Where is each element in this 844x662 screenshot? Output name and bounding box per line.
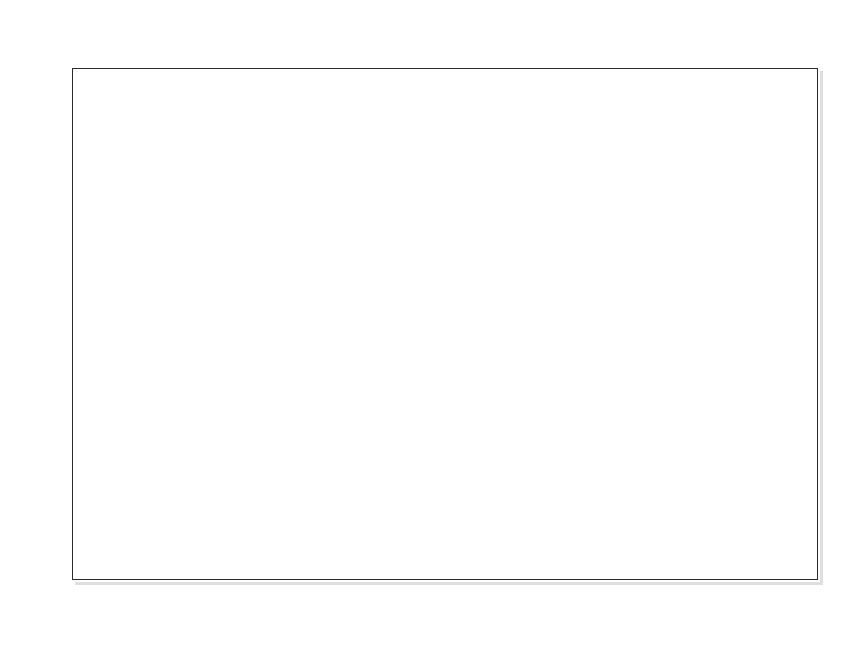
bars-layer bbox=[0, 0, 844, 662]
